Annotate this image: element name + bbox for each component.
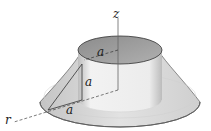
z-axis-label: z bbox=[112, 7, 120, 21]
r-axis-label: r bbox=[5, 113, 12, 127]
top-face bbox=[78, 36, 162, 64]
top-radius-label: a bbox=[97, 45, 104, 59]
cone-cylinder-diagram: z a a r a bbox=[0, 0, 211, 131]
base-offset-label: a bbox=[66, 103, 73, 117]
cylinder-height-label: a bbox=[85, 75, 92, 89]
